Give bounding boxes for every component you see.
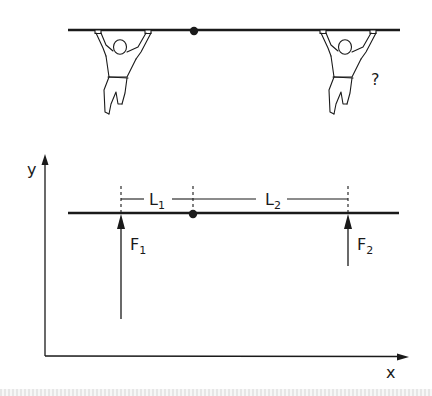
person-right-icon (320, 30, 376, 114)
question-mark: ? (371, 70, 380, 89)
lever-diagram: ? y x L1 L2 (0, 0, 432, 396)
x-axis-arrowhead-icon (397, 354, 409, 361)
force-f2-label: F2 (357, 235, 373, 257)
x-axis (45, 356, 400, 357)
force-f1-arrowhead-icon (117, 214, 125, 229)
force-f2-arrowhead-icon (344, 214, 352, 229)
x-axis-label: x (386, 363, 395, 382)
force-pivot (189, 210, 197, 218)
y-axis-label: y (27, 160, 36, 179)
force-f1-label: F1 (130, 235, 146, 257)
person-left-icon (95, 30, 151, 114)
dimension-l2-label: L2 (265, 190, 281, 212)
top-scene: ? (68, 27, 400, 114)
bottom-border-strip (0, 389, 432, 396)
dimension-l1-label: L1 (149, 190, 165, 212)
y-axis-arrowhead-icon (42, 154, 49, 165)
force-diagram: y x L1 L2 F1 F2 (27, 154, 409, 382)
top-pivot (190, 27, 198, 35)
